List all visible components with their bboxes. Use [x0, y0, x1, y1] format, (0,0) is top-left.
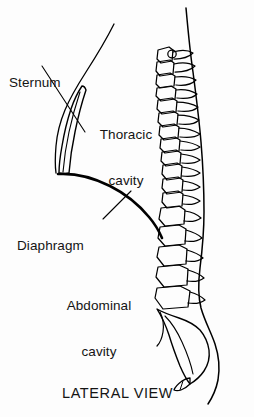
label-abdominal-cavity: Abdominal cavity [51, 268, 147, 389]
label-thoracic-cavity: Thoracic cavity [84, 97, 168, 218]
label-diaphragm-line-1: Diaphragm [17, 238, 84, 253]
label-thoracic-cavity-line-1: Thoracic [84, 127, 168, 142]
label-thoracic-cavity-line-2: cavity [84, 173, 168, 188]
label-abdominal-cavity-line-1: Abdominal [51, 298, 147, 313]
anatomy-figure: Sternum Thoracic cavity Diaphragm Abdomi… [0, 0, 254, 417]
label-abdominal-cavity-line-2: cavity [51, 344, 147, 359]
figure-caption: LATERAL VIEW [62, 385, 173, 401]
label-sternum: Sternum [9, 45, 61, 121]
label-sternum-line-1: Sternum [9, 75, 61, 90]
